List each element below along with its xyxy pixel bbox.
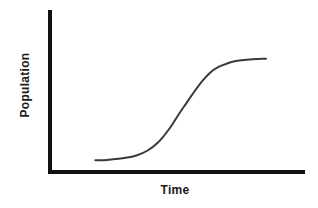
x-axis-label: Time bbox=[161, 184, 190, 196]
chart-plot-area bbox=[0, 0, 318, 208]
logistic-growth-curve bbox=[95, 59, 266, 161]
chart-figure: Population Time bbox=[0, 0, 318, 208]
y-axis-label: Population bbox=[19, 53, 31, 118]
